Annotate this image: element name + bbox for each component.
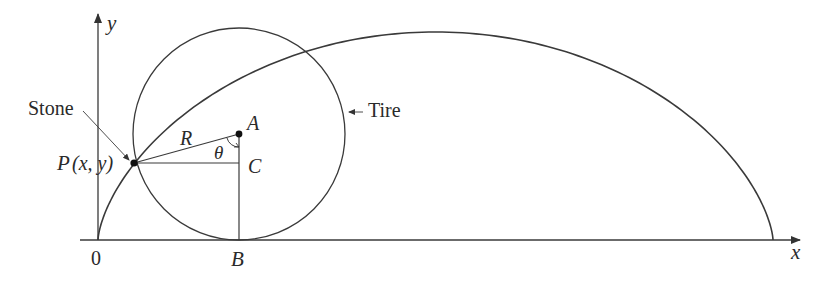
y-axis-label: y xyxy=(105,11,117,35)
point-p-label: P xyxy=(56,151,70,175)
point-b-label: B xyxy=(231,247,244,271)
tire-label: Tire xyxy=(368,99,401,121)
point-p-coords-label: (x, y) xyxy=(72,152,113,175)
cycloid-curve xyxy=(98,32,773,240)
point-a-dot xyxy=(236,131,243,138)
stone-label: Stone xyxy=(28,97,74,119)
theta-label: θ xyxy=(214,142,223,163)
radius-label: R xyxy=(179,127,192,149)
cycloid-figure: y x 0 Stone Tire P (x, y) A C B R θ xyxy=(0,0,822,286)
x-axis-label: x xyxy=(790,240,801,264)
origin-label: 0 xyxy=(91,247,101,269)
point-a-label: A xyxy=(245,112,260,134)
theta-arc xyxy=(227,138,239,147)
point-p-dot xyxy=(130,159,137,166)
point-c-label: C xyxy=(248,155,262,177)
